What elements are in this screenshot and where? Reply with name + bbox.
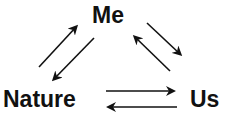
arrow-me-to-us bbox=[147, 23, 180, 54]
arrow-us-to-me bbox=[135, 37, 170, 71]
node-nature-label: Nature bbox=[3, 88, 76, 111]
node-me-label: Me bbox=[92, 4, 124, 27]
node-us-label: Us bbox=[190, 88, 219, 111]
diagram-canvas: Me Nature Us bbox=[0, 0, 225, 118]
